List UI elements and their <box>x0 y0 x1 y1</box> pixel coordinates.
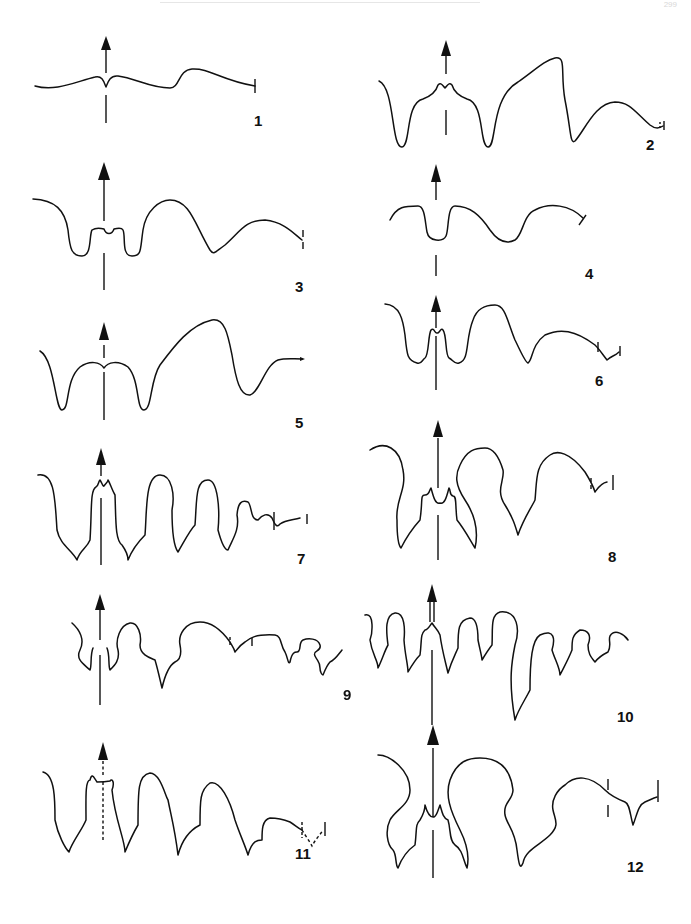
arrow-up-icon <box>95 594 105 610</box>
arrow-up-icon <box>431 164 441 182</box>
profile-outline-8 <box>345 400 691 575</box>
figure-panel-10: 10 <box>360 580 691 725</box>
profile-outline-9 <box>0 580 360 710</box>
figure-panel-9: 9 <box>0 580 360 710</box>
profile-outline-5 <box>0 300 345 440</box>
figure-panel-4: 4 <box>345 150 691 290</box>
figure-panel-8: 8 <box>345 400 691 575</box>
panel-label: 6 <box>595 372 603 389</box>
arrow-up-icon <box>431 295 441 312</box>
figure-panel-6: 6 <box>345 290 691 400</box>
arrow-up-icon <box>433 420 443 437</box>
arrow-up-icon <box>98 162 110 180</box>
profile-outline-1 <box>0 0 345 150</box>
panel-label: 3 <box>295 278 303 295</box>
panel-label: 1 <box>254 112 262 129</box>
panel-label: 8 <box>608 548 616 565</box>
panel-label: 4 <box>585 265 593 282</box>
profile-outline-12 <box>345 720 691 924</box>
arrow-up-icon <box>98 742 108 760</box>
profile-outline-4 <box>345 150 691 290</box>
figure-panel-12: 12 <box>345 720 691 924</box>
profile-outline-3 <box>0 150 345 300</box>
figure-panel-1: 1 <box>0 0 345 150</box>
profile-outline-10 <box>360 580 691 725</box>
profile-outline-2 <box>345 0 691 150</box>
panel-label: 9 <box>343 686 351 703</box>
profile-outline-7 <box>0 440 345 575</box>
panel-label: 5 <box>295 414 303 431</box>
arrow-up-icon <box>96 448 106 465</box>
arrow-up-icon <box>427 584 437 602</box>
figure-panel-7: 7 <box>0 440 345 575</box>
panel-label: 11 <box>295 845 311 862</box>
profile-outline-11 <box>0 730 345 860</box>
panel-label: 12 <box>627 858 644 875</box>
figure-panel-2: 2 <box>345 0 691 150</box>
figure-panel-5: 5 <box>0 300 345 440</box>
arrow-up-icon <box>441 40 451 56</box>
panel-label: 7 <box>297 550 305 567</box>
arrow-up-icon <box>427 725 439 745</box>
arrow-up-icon <box>101 36 111 50</box>
figure-panel-11: 11 <box>0 730 345 860</box>
arrow-up-icon <box>99 322 109 340</box>
profile-outline-6 <box>345 290 691 400</box>
figure-panel-3: 3 <box>0 150 345 300</box>
